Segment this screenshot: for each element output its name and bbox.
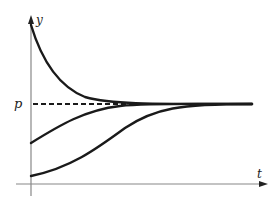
chart-canvas: y p t	[0, 0, 277, 202]
curve-above-p	[31, 25, 252, 104]
t-axis-label: t	[257, 167, 262, 181]
t-axis-arrow-icon	[259, 181, 268, 187]
y-axis-arrow-icon	[28, 15, 34, 24]
curve-near-zero-logistic	[31, 104, 252, 176]
p-level-label: p	[14, 96, 23, 111]
curve-below-p-concave	[31, 104, 252, 143]
solution-curves	[31, 25, 252, 176]
y-axis-label: y	[35, 13, 43, 27]
